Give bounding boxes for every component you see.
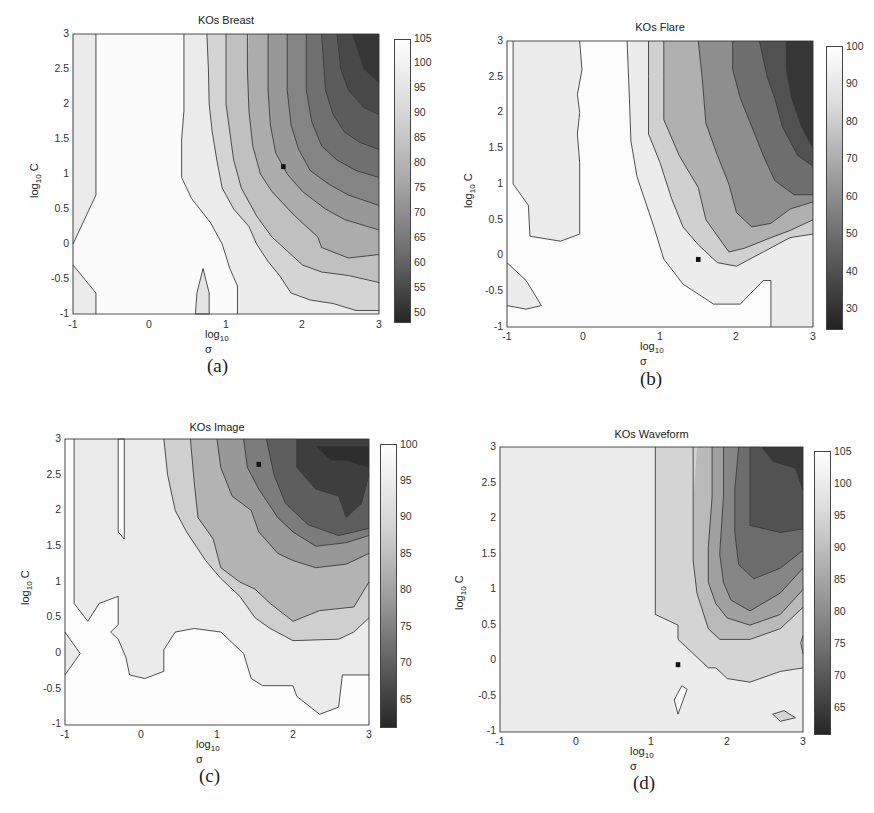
y-tick: 2 bbox=[39, 97, 69, 109]
y-tick: 0 bbox=[473, 248, 503, 260]
panel-caption: (d) bbox=[633, 772, 655, 794]
chart-title: KOs Breast bbox=[73, 14, 379, 26]
x-tick: 3 bbox=[367, 318, 391, 330]
y-tick: 0.5 bbox=[473, 213, 503, 225]
colorbar-tick: 90 bbox=[846, 77, 858, 89]
colorbar-tick: 90 bbox=[400, 510, 412, 522]
y-tick: 0 bbox=[466, 653, 496, 665]
y-axis-label: log10 C bbox=[28, 163, 43, 198]
x-tick: 3 bbox=[801, 330, 825, 342]
y-tick: 1.5 bbox=[466, 547, 496, 559]
colorbar bbox=[814, 451, 831, 735]
colorbar-tick: 95 bbox=[414, 81, 426, 93]
colorbar-tick: 65 bbox=[400, 693, 412, 705]
y-tick: 0 bbox=[31, 646, 61, 658]
chart-title: KOs Image bbox=[65, 421, 369, 433]
x-tick: 2 bbox=[715, 735, 739, 747]
y-tick: -0.5 bbox=[31, 682, 61, 694]
colorbar-tick: 90 bbox=[834, 541, 846, 553]
y-tick: 1.5 bbox=[39, 132, 69, 144]
colorbar-tick: 65 bbox=[414, 231, 426, 243]
colorbar-tick: 55 bbox=[414, 281, 426, 293]
colorbar-tick: 95 bbox=[400, 474, 412, 486]
colorbar-tick: 100 bbox=[414, 56, 432, 68]
y-tick: 3 bbox=[31, 432, 61, 444]
y-tick: 0.5 bbox=[31, 610, 61, 622]
x-tick: 0 bbox=[564, 735, 588, 747]
y-tick: 2.5 bbox=[466, 476, 496, 488]
colorbar-tick: 80 bbox=[400, 583, 412, 595]
y-tick: 1.5 bbox=[31, 539, 61, 551]
optimum-marker bbox=[676, 662, 681, 667]
x-tick: -1 bbox=[495, 330, 519, 342]
colorbar bbox=[394, 39, 411, 323]
colorbar-tick: 75 bbox=[400, 620, 412, 632]
x-tick: 2 bbox=[290, 318, 314, 330]
y-tick: -0.5 bbox=[473, 284, 503, 296]
y-tick: 1 bbox=[473, 177, 503, 189]
y-tick: 1 bbox=[39, 167, 69, 179]
optimum-marker bbox=[281, 164, 286, 169]
contour-plot bbox=[507, 41, 813, 327]
y-axis-label: log10 C bbox=[453, 575, 468, 610]
colorbar-tick: 75 bbox=[834, 637, 846, 649]
chart-title: KOs Waveform bbox=[500, 428, 803, 440]
y-tick: 1 bbox=[466, 582, 496, 594]
colorbar-tick: 100 bbox=[846, 40, 864, 52]
panel-caption: (a) bbox=[207, 355, 228, 377]
x-axis-label: log10 σ bbox=[196, 738, 220, 765]
colorbar-tick: 100 bbox=[400, 438, 418, 450]
x-tick: 0 bbox=[129, 728, 153, 740]
optimum-marker bbox=[696, 257, 701, 262]
colorbar-tick: 30 bbox=[846, 302, 858, 314]
y-tick: 0 bbox=[39, 237, 69, 249]
colorbar-tick: 70 bbox=[834, 669, 846, 681]
colorbar-tick: 75 bbox=[414, 181, 426, 193]
colorbar-tick: 85 bbox=[414, 131, 426, 143]
colorbar-tick: 60 bbox=[846, 190, 858, 202]
x-tick: 3 bbox=[791, 735, 815, 747]
x-axis-label: log10 σ bbox=[205, 328, 229, 355]
colorbar-tick: 95 bbox=[834, 509, 846, 521]
y-tick: 3 bbox=[473, 34, 503, 46]
colorbar-tick: 50 bbox=[414, 306, 426, 318]
x-tick: 2 bbox=[281, 728, 305, 740]
colorbar-tick: 85 bbox=[834, 573, 846, 585]
colorbar-tick: 70 bbox=[400, 656, 412, 668]
y-tick: 0.5 bbox=[466, 618, 496, 630]
x-tick: 0 bbox=[571, 330, 595, 342]
y-tick: 1 bbox=[31, 575, 61, 587]
colorbar bbox=[380, 444, 397, 728]
colorbar-tick: 65 bbox=[834, 701, 846, 713]
x-tick: 0 bbox=[137, 318, 161, 330]
x-tick: -1 bbox=[488, 735, 512, 747]
panel-caption: (c) bbox=[199, 765, 220, 787]
optimum-marker bbox=[257, 462, 262, 467]
x-tick: -1 bbox=[61, 318, 85, 330]
colorbar-tick: 105 bbox=[414, 32, 432, 44]
y-axis-label: log10 C bbox=[19, 570, 34, 605]
colorbar-tick: 70 bbox=[846, 152, 858, 164]
panel-caption: (b) bbox=[640, 368, 662, 390]
colorbar-tick: 80 bbox=[414, 156, 426, 168]
y-tick: 2 bbox=[466, 511, 496, 523]
colorbar-tick: 50 bbox=[846, 227, 858, 239]
colorbar-tick: 70 bbox=[414, 206, 426, 218]
y-tick: -0.5 bbox=[466, 689, 496, 701]
colorbar-tick: 60 bbox=[414, 256, 426, 268]
x-axis-label: log10 σ bbox=[630, 745, 654, 772]
x-tick: 3 bbox=[357, 728, 381, 740]
chart-title: KOs Flare bbox=[507, 21, 813, 33]
x-tick: -1 bbox=[53, 728, 77, 740]
y-tick: 3 bbox=[466, 440, 496, 452]
y-tick: -0.5 bbox=[39, 272, 69, 284]
y-axis-label: log10 C bbox=[462, 173, 477, 208]
colorbar-tick: 105 bbox=[834, 445, 852, 457]
y-tick: 3 bbox=[39, 27, 69, 39]
y-tick: 2 bbox=[31, 503, 61, 515]
y-tick: 2 bbox=[473, 105, 503, 117]
contour-plot bbox=[73, 34, 379, 314]
contour-plot bbox=[500, 447, 803, 732]
colorbar-tick: 80 bbox=[834, 605, 846, 617]
y-tick: 2.5 bbox=[31, 468, 61, 480]
